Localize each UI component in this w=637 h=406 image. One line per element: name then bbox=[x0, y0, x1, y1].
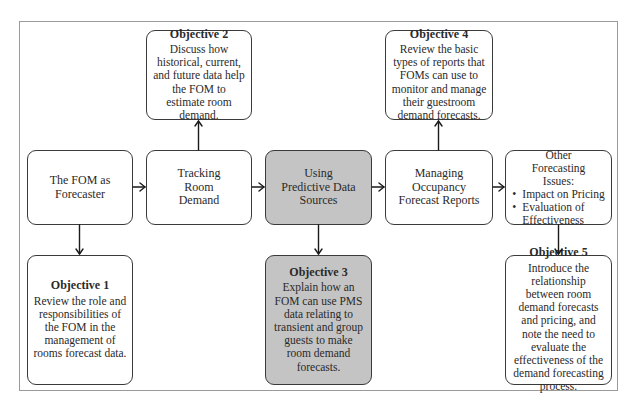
objective-1-text: Review the role and responsibilities of … bbox=[33, 295, 127, 361]
objective-4-text: Review the basic types of reports that F… bbox=[391, 43, 487, 122]
objective-2-text: Discuss how historical, current, and fut… bbox=[152, 43, 246, 122]
objective-4-box: Objective 4 Review the basic types of re… bbox=[385, 30, 493, 120]
objective-3-text: Explain how an FOM can use PMS data rela… bbox=[271, 281, 366, 373]
issues-list: Impact on Pricing Evaluation of Effectiv… bbox=[512, 188, 604, 227]
issue-bullet-effectiveness: Evaluation of Effectiveness bbox=[512, 201, 602, 227]
objective-5-title: Objective 5 bbox=[529, 246, 587, 259]
objective-4-title: Objective 4 bbox=[410, 28, 468, 41]
flow-step-label: Managing Occupancy Forecast Reports bbox=[391, 167, 487, 208]
flow-step-using-predictive-data-sources: Using Predictive Data Sources bbox=[265, 150, 372, 225]
issue-bullet-pricing: Impact on Pricing bbox=[512, 188, 604, 201]
flow-step-label: Other Forecasting Issues: bbox=[511, 149, 606, 188]
flow-step-label: Using Predictive Data Sources bbox=[271, 167, 366, 208]
flow-step-managing-occupancy-forecast-reports: Managing Occupancy Forecast Reports bbox=[385, 150, 493, 225]
objective-5-text: Introduce the relationship between room … bbox=[511, 262, 606, 394]
objective-1-box: Objective 1 Review the role and responsi… bbox=[27, 255, 133, 385]
objective-2-title: Objective 2 bbox=[170, 28, 228, 41]
objective-5-box: Objective 5 Introduce the relationship b… bbox=[505, 255, 612, 385]
flow-step-tracking-room-demand: Tracking Room Demand bbox=[146, 150, 252, 225]
flow-step-other-forecasting-issues: Other Forecasting Issues: Impact on Pric… bbox=[505, 150, 612, 225]
flow-step-label: The FOM as Forecaster bbox=[33, 174, 127, 201]
objective-3-title: Objective 3 bbox=[289, 266, 347, 279]
objective-3-box: Objective 3 Explain how an FOM can use P… bbox=[265, 255, 372, 385]
objective-1-title: Objective 1 bbox=[51, 279, 109, 292]
flow-step-label: Tracking Room Demand bbox=[152, 167, 246, 208]
objective-2-box: Objective 2 Discuss how historical, curr… bbox=[146, 30, 252, 120]
flow-step-fom-as-forecaster: The FOM as Forecaster bbox=[27, 150, 133, 225]
